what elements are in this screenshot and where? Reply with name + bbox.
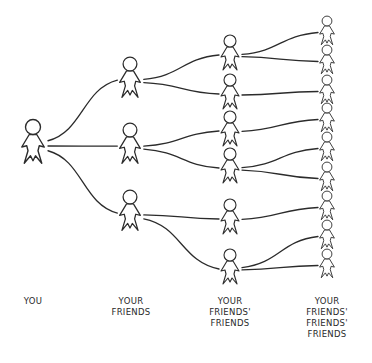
connection-line — [242, 265, 318, 269]
label-line: FRIENDS — [111, 307, 150, 318]
connection-line — [144, 55, 219, 79]
connection-line — [242, 148, 318, 167]
label-friends-friends: YOUR FRIENDS' FRIENDS — [209, 296, 251, 329]
person-head-icon — [224, 111, 236, 123]
person-head-icon — [224, 148, 236, 160]
friend-of-friend-of-friend-figure — [320, 220, 335, 249]
person-head-icon — [322, 220, 332, 230]
person-body-icon — [22, 135, 45, 164]
friend-of-friend-of-friend-figure — [320, 132, 335, 161]
person-head-icon — [26, 120, 41, 135]
connection-line — [144, 219, 219, 269]
person-body-icon — [320, 85, 335, 104]
person-body-icon — [320, 26, 335, 45]
person-body-icon — [221, 47, 239, 70]
connection-lines — [48, 32, 318, 269]
person-body-icon — [320, 113, 335, 132]
label-you: YOU — [24, 296, 43, 307]
friend-of-friend-figure — [221, 35, 239, 70]
person-head-icon — [322, 132, 332, 142]
friend-of-friend-figure — [221, 111, 239, 146]
label-your-friends: YOUR FRIENDS — [111, 296, 150, 318]
friend-of-friend-figure — [221, 148, 239, 183]
person-head-icon — [322, 191, 332, 201]
person-head-icon — [322, 249, 332, 259]
connection-line — [144, 131, 219, 146]
friend-figure — [120, 57, 141, 97]
connection-line — [242, 236, 318, 267]
person-head-icon — [123, 190, 137, 204]
friend-of-friend-figure — [221, 199, 239, 234]
person-body-icon — [320, 142, 335, 161]
connection-line — [144, 83, 219, 94]
connection-line — [48, 80, 117, 141]
person-body-icon — [120, 71, 141, 97]
friend-of-friend-of-friend-figure — [320, 103, 335, 132]
friend-of-friend-figure — [221, 249, 239, 284]
person-body-icon — [320, 55, 335, 74]
friend-figure — [120, 190, 141, 230]
person-head-icon — [224, 35, 236, 47]
label-friends-friends-friends: YOUR FRIENDS' FRIENDS' FRIENDS — [306, 296, 348, 340]
person-body-icon — [221, 261, 239, 284]
connection-line — [242, 207, 318, 219]
person-head-icon — [322, 162, 332, 172]
friend-of-friend-figure — [221, 74, 239, 109]
person-body-icon — [320, 201, 335, 220]
person-head-icon — [224, 74, 236, 86]
label-line: FRIENDS' — [209, 307, 251, 318]
connection-line — [242, 32, 318, 54]
friend-figure — [120, 123, 141, 163]
label-line: YOUR — [209, 296, 251, 307]
connection-line — [48, 151, 117, 213]
person-body-icon — [120, 137, 141, 163]
person-body-icon — [320, 172, 335, 191]
person-body-icon — [120, 204, 141, 230]
friend-of-friend-of-friend-figure — [320, 45, 335, 74]
person-body-icon — [221, 211, 239, 234]
person-head-icon — [322, 75, 332, 85]
connection-line — [242, 91, 318, 95]
connection-line — [242, 119, 318, 131]
connection-line — [242, 170, 318, 178]
label-line: FRIENDS' — [306, 307, 348, 318]
person-head-icon — [322, 103, 332, 113]
person-body-icon — [320, 230, 335, 249]
person-head-icon — [322, 45, 332, 55]
person-body-icon — [221, 123, 239, 146]
label-line: YOU — [24, 296, 43, 307]
friend-of-friend-of-friend-figure — [320, 75, 335, 104]
person-figures — [22, 16, 335, 284]
connection-line — [144, 215, 219, 219]
person-head-icon — [322, 16, 332, 26]
friend-of-friend-of-friend-figure — [320, 191, 335, 220]
friend-of-friend-of-friend-figure — [320, 16, 335, 45]
person-body-icon — [221, 86, 239, 109]
connection-line — [242, 57, 318, 62]
label-line: YOUR — [306, 296, 348, 307]
label-line: FRIENDS — [306, 329, 348, 340]
person-head-icon — [224, 199, 236, 211]
label-line: FRIENDS — [209, 318, 251, 329]
person-body-icon — [320, 259, 335, 278]
you-figure — [22, 120, 45, 164]
connection-line — [144, 149, 219, 168]
person-head-icon — [123, 123, 137, 137]
person-head-icon — [123, 57, 137, 71]
label-line: YOUR — [111, 296, 150, 307]
label-line: FRIENDS' — [306, 318, 348, 329]
friend-of-friend-of-friend-figure — [320, 249, 335, 278]
person-body-icon — [221, 160, 239, 183]
friend-of-friend-of-friend-figure — [320, 162, 335, 191]
person-head-icon — [224, 249, 236, 261]
